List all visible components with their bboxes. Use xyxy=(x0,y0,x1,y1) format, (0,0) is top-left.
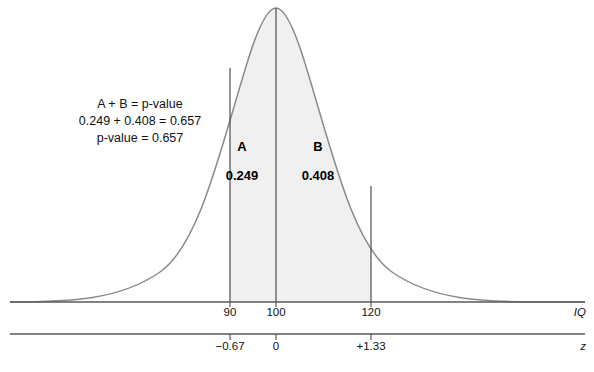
region-a-value: 0.249 xyxy=(212,168,272,183)
shaded-region-b xyxy=(10,8,585,302)
p-value-annotation: A + B = p-value 0.249 + 0.408 = 0.657 p-… xyxy=(40,96,240,147)
region-b-value: 0.408 xyxy=(288,168,348,183)
z-axis-name: z xyxy=(546,340,586,352)
z-tick-label-0: 0 xyxy=(246,340,306,352)
iq-tick-label-100: 100 xyxy=(246,306,306,318)
annotation-line-3: p-value = 0.657 xyxy=(40,130,240,147)
region-a-label: A xyxy=(222,139,262,154)
annotation-line-2: 0.249 + 0.408 = 0.657 xyxy=(40,113,240,130)
region-b-label: B xyxy=(298,139,338,154)
iq-axis-name: IQ xyxy=(546,306,586,318)
annotation-line-1: A + B = p-value xyxy=(40,96,240,113)
iq-tick-label-120: 120 xyxy=(341,306,401,318)
z-tick-label-133: +1.33 xyxy=(341,340,401,352)
